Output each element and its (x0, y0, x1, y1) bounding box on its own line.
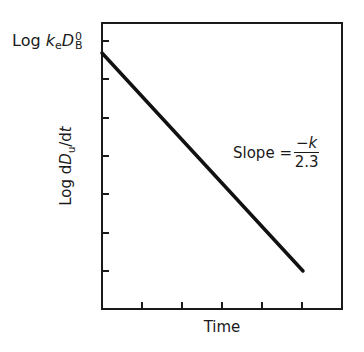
slope-fraction: −k 2.3 (294, 135, 319, 171)
slope-annotation: Slope = −k 2.3 (233, 135, 319, 171)
y-axis-suffix: /d (57, 132, 75, 147)
y-axis-title: Log dDu/dt (57, 126, 75, 205)
intercept-D: D (62, 31, 74, 50)
chart-canvas (0, 0, 364, 352)
y-axis-t: t (57, 126, 75, 132)
intercept-supsub: 0B (75, 32, 83, 50)
slope-denominator: 2.3 (295, 153, 319, 171)
slope-text: Slope = (233, 144, 292, 162)
y-axis-prefix: Log d (57, 165, 75, 206)
intercept-k: k (46, 31, 55, 50)
slope-numerator: −k (294, 135, 319, 153)
y-axis-D: D (57, 153, 75, 165)
x-axis-title: Time (204, 318, 241, 336)
intercept-sub-B: B (75, 39, 83, 52)
x-axis-ticks (142, 302, 302, 309)
intercept-label: Log keD0B (12, 31, 83, 51)
y-axis-sub-u: u (66, 147, 77, 153)
y-axis-ticks (102, 41, 109, 271)
intercept-prefix: Log (12, 31, 46, 50)
slope-minus: − (296, 134, 309, 152)
intercept-sub-e: e (55, 39, 62, 52)
slope-k: k (309, 134, 318, 152)
